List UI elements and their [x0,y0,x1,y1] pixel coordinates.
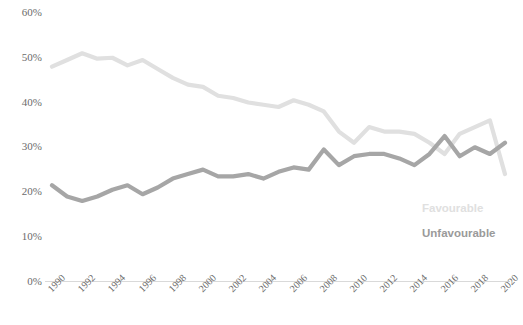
x-tick-label: 1992 [76,273,97,294]
line-chart: 0%10%20%30%40%50%60% 1990199219941996199… [0,0,523,325]
x-tick-label: 1994 [106,273,127,294]
x-tick-label: 2018 [469,273,490,294]
x-tick-label: 2000 [197,273,218,294]
x-tick-label: 2012 [378,273,399,294]
x-tick-label: 1990 [46,273,67,294]
x-tick-label: 2004 [257,273,278,294]
x-axis-tick-labels: 1990199219941996199820002002200420062008… [0,0,523,325]
x-tick-label: 2014 [408,273,429,294]
x-tick-label: 2016 [439,273,460,294]
legend-item-unfavourable[interactable]: Unfavourable [422,228,496,240]
x-tick-label: 2020 [499,273,520,294]
x-tick-label: 2002 [227,273,248,294]
x-tick-label: 1998 [167,273,188,294]
x-tick-label: 2008 [318,273,339,294]
x-tick-label: 1996 [137,273,158,294]
x-tick-label: 2006 [288,273,309,294]
legend-item-favourable[interactable]: Favourable [422,203,483,215]
x-tick-label: 2010 [348,273,369,294]
